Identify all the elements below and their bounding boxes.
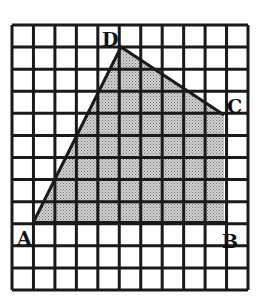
- label-d: D: [102, 28, 118, 50]
- label-c: C: [227, 95, 242, 117]
- label-b: B: [222, 230, 238, 252]
- grid-polygon-figure: A B C D: [0, 0, 265, 308]
- label-a: A: [16, 227, 32, 249]
